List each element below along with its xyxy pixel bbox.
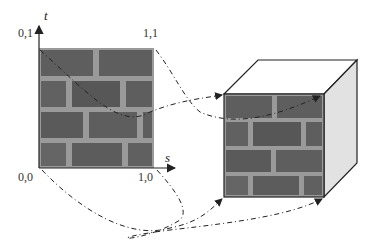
corner-label-1-1: 1,1 [143,26,158,41]
texture-square [39,48,154,168]
corner-label-0-1: 0,1 [18,26,33,41]
mapping-curve-0-0 [42,170,222,231]
s-axis-label: s [165,150,170,166]
texture-mapping-diagram [0,0,377,246]
cube-front-face [224,94,324,197]
t-axis-label: t [44,8,48,24]
corner-label-1-0: 1,0 [138,170,153,185]
corner-label-0-0: 0,0 [18,170,33,185]
